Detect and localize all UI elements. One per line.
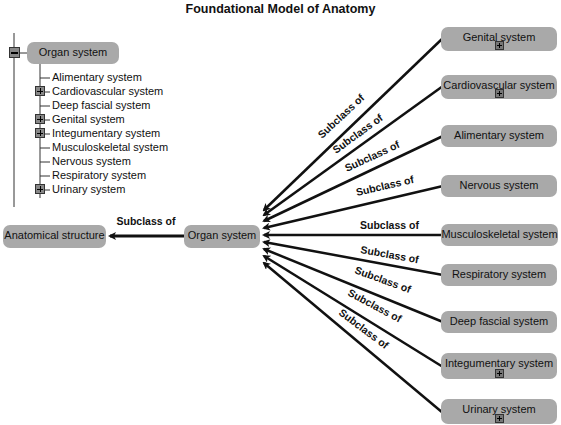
tree-item-deep-fascial[interactable]: Deep fascial system xyxy=(52,99,150,111)
node-urinary-system[interactable]: Urinary system xyxy=(441,399,557,424)
node-nervous-system[interactable]: Nervous system xyxy=(441,175,557,197)
collapse-icon[interactable] xyxy=(9,47,20,58)
expand-icon[interactable] xyxy=(495,369,504,378)
node-label: Anatomical structure xyxy=(4,229,104,241)
node-label: Nervous system xyxy=(460,179,539,191)
edge-label-parent: Subclass of xyxy=(117,215,176,227)
tree-item-alimentary[interactable]: Alimentary system xyxy=(52,71,142,83)
tree-item-nervous[interactable]: Nervous system xyxy=(52,155,131,167)
node-label: Respiratory system xyxy=(452,268,546,280)
expand-icon[interactable] xyxy=(35,86,45,96)
node-label: Integumentary system xyxy=(445,357,553,369)
tree-item-urinary[interactable]: Urinary system xyxy=(52,183,125,195)
node-genital-system[interactable]: Genital system xyxy=(441,27,557,51)
tree-root-organ-system[interactable]: Organ system xyxy=(27,42,119,64)
node-alimentary-system[interactable]: Alimentary system xyxy=(441,125,557,147)
expand-icon[interactable] xyxy=(495,89,504,98)
node-label: Musculoskeletal system xyxy=(441,228,557,240)
tree-item-integumentary[interactable]: Integumentary system xyxy=(52,127,160,139)
node-deep-fascial-system[interactable]: Deep fascial system xyxy=(441,311,557,333)
node-label: Alimentary system xyxy=(454,129,544,141)
tree-root-label: Organ system xyxy=(39,46,107,58)
node-integumentary-system[interactable]: Integumentary system xyxy=(441,353,557,379)
node-organ-system-center[interactable]: Organ system xyxy=(184,225,260,248)
expand-icon[interactable] xyxy=(35,184,45,194)
node-label: Organ system xyxy=(188,229,256,241)
edge-label-musculoskeletal: Subclass of xyxy=(360,219,419,231)
tree-item-genital[interactable]: Genital system xyxy=(52,113,125,125)
expand-icon[interactable] xyxy=(35,128,45,138)
expand-icon[interactable] xyxy=(35,114,45,124)
expand-icon[interactable] xyxy=(495,414,504,423)
node-cardiovascular-system[interactable]: Cardiovascular system xyxy=(441,75,557,99)
edge-genital xyxy=(264,38,443,210)
tree-item-musculoskeletal[interactable]: Musculoskeletal system xyxy=(52,141,168,153)
node-respiratory-system[interactable]: Respiratory system xyxy=(441,264,557,286)
tree-item-cardiovascular[interactable]: Cardiovascular system xyxy=(52,85,163,97)
node-label: Deep fascial system xyxy=(450,315,548,327)
tree-item-respiratory[interactable]: Respiratory system xyxy=(52,169,146,181)
node-musculoskeletal-system[interactable]: Musculoskeletal system xyxy=(441,224,558,246)
expand-icon[interactable] xyxy=(495,41,504,50)
node-anatomical-structure[interactable]: Anatomical structure xyxy=(3,225,106,248)
